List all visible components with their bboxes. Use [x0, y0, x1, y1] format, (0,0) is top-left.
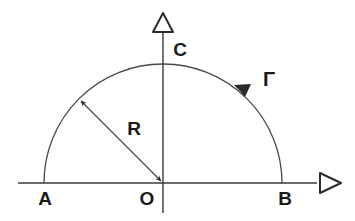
horizontal-axis-arrowhead-icon	[320, 173, 341, 193]
contour-diagram	[0, 0, 355, 221]
figure-root: A O B C R Γ	[0, 0, 355, 221]
label-point-c: C	[173, 40, 187, 59]
radius-vector-line	[81, 101, 161, 181]
label-radius: R	[127, 119, 141, 138]
label-contour-gamma: Γ	[263, 69, 275, 89]
vertical-axis-arrowhead-icon	[153, 13, 173, 32]
label-point-a: A	[38, 189, 52, 208]
label-point-b: B	[278, 189, 292, 208]
label-point-o: O	[140, 189, 155, 208]
